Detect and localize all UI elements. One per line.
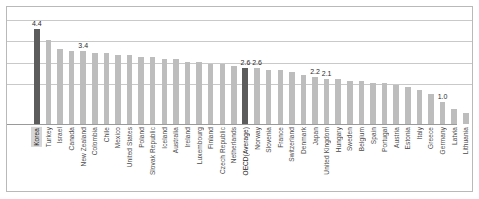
- bar[interactable]: [92, 53, 98, 124]
- bar-slot: [112, 25, 124, 124]
- bar-slot: 2.1: [321, 25, 333, 124]
- x-axis-tick-label: Turkey: [43, 127, 54, 147]
- bar[interactable]: [220, 64, 226, 124]
- x-label-slot: Sweden: [344, 127, 356, 193]
- bar[interactable]: [312, 77, 318, 124]
- bar-slot: [379, 25, 391, 124]
- bar[interactable]: [359, 81, 365, 124]
- bar[interactable]: [382, 83, 388, 124]
- bar[interactable]: [254, 68, 260, 124]
- bar[interactable]: [34, 29, 40, 124]
- bar[interactable]: [80, 51, 86, 124]
- bar[interactable]: [138, 57, 144, 124]
- bar[interactable]: [208, 64, 214, 124]
- bar[interactable]: [46, 40, 52, 124]
- x-axis-tick-label: Australia: [170, 127, 181, 153]
- bar-value-label: 2.1: [322, 70, 332, 77]
- chart-frame: 4.43.42.62.62.22.11.0 KoreaTurkeyIsraelC…: [6, 6, 473, 192]
- x-axis-tick-label: Japan: [310, 127, 321, 145]
- x-axis-tick-label: Finland: [205, 127, 216, 149]
- x-label-slot: Chile: [101, 127, 113, 193]
- x-label-slot: Turkey: [43, 127, 55, 193]
- x-label-slot: Iceland: [159, 127, 171, 193]
- x-axis-labels: KoreaTurkeyIsraelCanadaNew ZealandColomb…: [31, 127, 479, 193]
- bar-slot: [66, 25, 78, 124]
- bar[interactable]: [150, 57, 156, 124]
- x-label-slot: Austria: [390, 127, 402, 193]
- bar-slot: [135, 25, 147, 124]
- x-axis-tick-label: Canada: [66, 127, 77, 150]
- bar[interactable]: [417, 90, 423, 124]
- bar-value-label: 1.0: [438, 93, 448, 100]
- bar[interactable]: [278, 70, 284, 124]
- bar[interactable]: [370, 83, 376, 124]
- bar[interactable]: [347, 81, 353, 124]
- bar-slot: [390, 25, 402, 124]
- x-axis-tick-label: Czech Republic: [217, 127, 228, 174]
- bar-slot: [367, 25, 379, 124]
- bar[interactable]: [451, 109, 457, 124]
- chart-container: 단위: % 4.43.42.62.62.22.11.0 KoreaTurkeyI…: [0, 0, 479, 199]
- bar[interactable]: [463, 113, 469, 124]
- bar-slot: 2.6: [240, 25, 252, 124]
- bar[interactable]: [324, 79, 330, 124]
- x-label-slot: Portugal: [379, 127, 391, 193]
- x-axis-tick-label: Mexico: [112, 127, 123, 148]
- bar[interactable]: [231, 66, 237, 124]
- bar[interactable]: [428, 94, 434, 124]
- bar-value-label: 2.2: [310, 68, 320, 75]
- x-axis-tick-label: Spain: [368, 127, 379, 144]
- x-label-slot: France: [274, 127, 286, 193]
- bar[interactable]: [301, 75, 307, 125]
- bar[interactable]: [440, 102, 446, 124]
- x-label-slot: Hungary: [332, 127, 344, 193]
- bar-slot: [425, 25, 437, 124]
- bar[interactable]: [405, 87, 411, 124]
- bar-slot: [263, 25, 275, 124]
- bar-slot: [89, 25, 101, 124]
- x-label-slot: Ireland: [182, 127, 194, 193]
- bar[interactable]: [127, 55, 133, 124]
- x-axis-tick-label: Germany: [437, 127, 448, 154]
- bar-slot: [159, 25, 171, 124]
- bar[interactable]: [393, 85, 399, 124]
- bar[interactable]: [173, 59, 179, 124]
- bar[interactable]: [196, 62, 202, 124]
- bar-value-label: 2.6: [252, 59, 262, 66]
- bar-slot: [54, 25, 66, 124]
- x-axis-tick-label: Lithuania: [460, 127, 471, 154]
- bar-slot: [170, 25, 182, 124]
- x-axis-tick-label: Iceland: [159, 127, 170, 149]
- bar[interactable]: [242, 68, 248, 124]
- bar[interactable]: [57, 49, 63, 124]
- x-label-slot: Finland: [205, 127, 217, 193]
- x-label-slot: Lithuania: [460, 127, 472, 193]
- bar-slot: [332, 25, 344, 124]
- bar[interactable]: [335, 79, 341, 124]
- bar[interactable]: [69, 51, 75, 124]
- bar-slot: [193, 25, 205, 124]
- x-axis-tick-label: France: [275, 127, 286, 148]
- x-axis-tick-label: Poland: [136, 127, 147, 148]
- x-label-slot: Luxembourg: [193, 127, 205, 193]
- x-label-slot: Greece: [425, 127, 437, 193]
- bar[interactable]: [104, 53, 110, 124]
- x-label-slot: Japan: [309, 127, 321, 193]
- bars-group: 4.43.42.62.62.22.11.0: [31, 25, 479, 124]
- x-label-slot: Belgium: [356, 127, 368, 193]
- x-label-slot: Spain: [367, 127, 379, 193]
- bar[interactable]: [266, 70, 272, 124]
- gridline: [7, 20, 472, 21]
- x-axis-tick-label: Austria: [391, 127, 402, 148]
- x-label-slot: United States: [124, 127, 136, 193]
- x-axis-tick-label: Portugal: [379, 127, 390, 152]
- bar-slot: [43, 25, 55, 124]
- bar[interactable]: [185, 62, 191, 124]
- bar[interactable]: [115, 55, 121, 124]
- bar-value-label: 2.6: [241, 59, 251, 66]
- bar[interactable]: [162, 59, 168, 124]
- x-label-slot: Germany: [437, 127, 449, 193]
- x-label-slot: Denmark: [298, 127, 310, 193]
- bar-value-label: 3.4: [78, 42, 88, 49]
- bar[interactable]: [289, 72, 295, 124]
